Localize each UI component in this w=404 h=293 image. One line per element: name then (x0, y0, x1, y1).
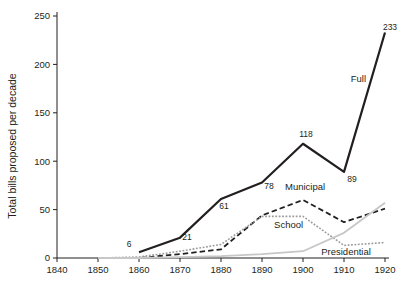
bills-per-decade-line-chart: Total bills proposed per decade 05010015… (0, 0, 404, 293)
data-point-label: 118 (299, 129, 313, 139)
presidential-label: Presidential (321, 246, 371, 257)
y-axis-title-text: Total bills proposed per decade (6, 73, 18, 219)
school-label: School (274, 219, 303, 230)
x-axis-tick-label: 1850 (87, 264, 108, 275)
y-axis-title: Total bills proposed per decade (6, 73, 18, 219)
x-axis-tick-label: 1920 (374, 264, 395, 275)
y-axis-tick-label: 100 (34, 156, 50, 167)
y-axis-tick-label: 150 (34, 107, 50, 118)
x-axis-tick-label: 1890 (251, 264, 272, 275)
y-axis-tick-label: 250 (34, 10, 50, 21)
x-axis-tick-label: 1840 (46, 264, 67, 275)
data-point-label: 78 (264, 181, 274, 191)
municipal-label: Municipal (285, 181, 325, 192)
data-point-label: 6 (127, 239, 132, 249)
data-point-label: 89 (347, 174, 357, 184)
x-axis-tick-label: 1860 (128, 264, 149, 275)
data-point-label: 61 (219, 201, 229, 211)
x-axis-tick-label: 1910 (333, 264, 354, 275)
chart-container: Total bills proposed per decade 05010015… (0, 0, 404, 293)
y-axis-tick-label: 200 (34, 59, 50, 70)
y-axis-tick-label: 50 (39, 204, 50, 215)
full-label: Full (351, 73, 366, 84)
y-axis-tick-label: 0 (45, 252, 50, 263)
x-axis-tick-label: 1880 (210, 264, 231, 275)
data-point-label: 233 (383, 22, 397, 32)
x-axis-tick-label: 1900 (292, 264, 313, 275)
x-axis-tick-label: 1870 (169, 264, 190, 275)
data-point-label: 21 (182, 232, 192, 242)
